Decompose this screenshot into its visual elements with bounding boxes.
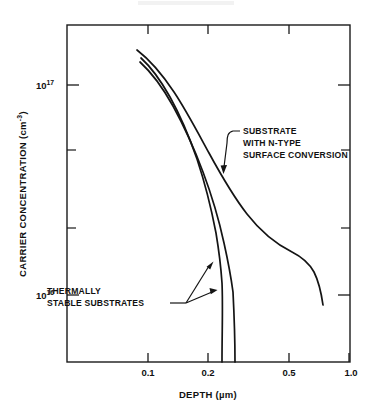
annotation-substrate-n-type: SUBSTRATE WITH N-TYPE SURFACE CONVERSION [221,126,348,174]
x-tick-label-2: 0.5 [282,367,296,378]
annotation-thermally-arrowhead-lower [210,288,218,294]
y-tick-label-1e17: 1017 [36,79,54,92]
y-tick-mantissa-1e17: 10 [36,80,47,91]
x-axis-title: DEPTH (µm) [179,389,237,400]
annotation-substrate-line-1: SUBSTRATE [243,126,297,136]
y-axis-title-group: CARRIER CONCENTRATION (cm-3) [16,111,29,277]
y-axis-title: CARRIER CONCENTRATION (cm-3) [16,111,29,277]
y-axis-title-main: CARRIER CONCENTRATION (cm [17,121,28,277]
x-tick-label-0: 0.1 [141,367,155,378]
x-axis-ticks-bottom [148,353,349,362]
y-axis-title-superscript: -3 [16,115,23,122]
x-tick-label-1: 0.2 [201,367,214,378]
x-tick-label-3: 1.0 [344,367,357,378]
y-axis-ticks-left [67,85,79,295]
annotation-substrate-line-2: WITH N-TYPE [243,138,301,148]
carrier-concentration-depth-chart: 0.1 0.2 0.5 1.0 1017 1016 DEPTH (µm) CAR… [0,0,374,417]
annotation-thermally-leader-line-upper [186,266,209,303]
annotation-substrate-leader-line [224,131,240,167]
annotation-thermally-line-2: STABLE SUBSTRATES [47,298,144,308]
x-axis-title-group: DEPTH (µm) [179,389,237,400]
y-tick-labels: 1017 1016 [36,79,54,302]
plot-frame [67,25,350,362]
annotation-thermally-stable: THERMALLY STABLE SUBSTRATES [47,262,218,309]
annotation-thermally-line-1: THERMALLY [47,286,101,296]
curve-thermally-stable-b [140,62,235,362]
y-axis-ticks-right [338,85,350,295]
y-tick-mantissa-1e16: 10 [36,290,47,301]
y-tick-exponent-1e17: 17 [47,79,55,86]
y-axis-title-tail: ) [17,111,28,114]
annotation-substrate-arrowhead [221,165,227,174]
figure-container: 0.1 0.2 0.5 1.0 1017 1016 DEPTH (µm) CAR… [0,0,374,417]
annotation-substrate-line-3: SURFACE CONVERSION [243,150,348,160]
x-axis-ticks-top [148,25,289,34]
x-tick-labels: 0.1 0.2 0.5 1.0 [141,367,357,378]
